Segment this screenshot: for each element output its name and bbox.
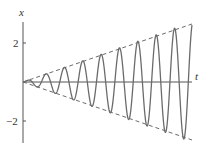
y-tick-label-2: 2 [13, 37, 19, 49]
upper-envelope [23, 24, 192, 82]
x-axis-label: t [195, 70, 199, 82]
y-axis-label: x [18, 6, 24, 18]
resonance-chart: x t 2 −2 [0, 0, 208, 150]
y-tick-label-neg2: −2 [6, 115, 18, 127]
